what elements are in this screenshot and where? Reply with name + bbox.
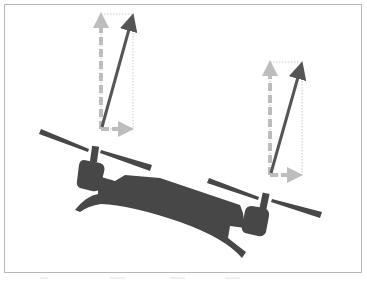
left-thrust-arrow	[102, 22, 131, 127]
right-motor-shaft	[259, 193, 269, 210]
left-motor-shaft	[90, 146, 99, 163]
left-propeller-blade-left	[39, 129, 89, 152]
left-propeller-blade-right	[100, 150, 152, 171]
right-thrust-arrow	[271, 70, 300, 173]
drone-thrust-diagram	[0, 0, 367, 281]
bottom-edge-marks	[0, 276, 367, 281]
drone	[39, 129, 322, 258]
right-thrust-vector-group	[270, 62, 302, 175]
right-propeller-blade-right	[271, 199, 322, 218]
left-thrust-vector-group	[101, 14, 133, 129]
right-motor	[242, 206, 269, 236]
